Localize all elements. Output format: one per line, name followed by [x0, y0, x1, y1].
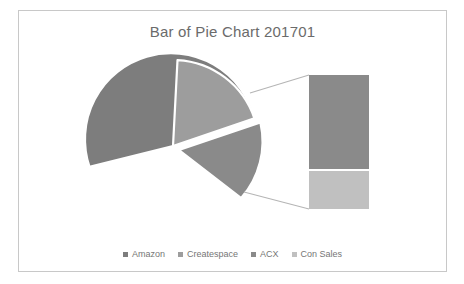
- connector-line-bottom: [244, 192, 309, 209]
- legend-item-amazon[interactable]: Amazon: [123, 250, 165, 259]
- bar-segment-con-sales[interactable]: [309, 171, 369, 209]
- legend-label-con-sales: Con Sales: [301, 250, 343, 259]
- legend-item-acx[interactable]: ACX: [251, 250, 279, 259]
- legend-swatch-acx: [251, 252, 256, 257]
- screenshot-canvas: Bar of Pie Chart 201701 Amazon: [0, 0, 464, 284]
- bar-segment-acx[interactable]: [309, 75, 369, 169]
- connector-line-top: [250, 75, 309, 93]
- legend-swatch-amazon: [123, 252, 128, 257]
- legend-item-createspace[interactable]: Createspace: [178, 250, 238, 259]
- chart-frame: Bar of Pie Chart 201701 Amazon: [18, 10, 447, 272]
- legend-swatch-con-sales: [292, 252, 297, 257]
- legend-swatch-createspace: [178, 252, 183, 257]
- chart-legend: Amazon Createspace ACX Con Sales: [19, 250, 446, 259]
- legend-label-createspace: Createspace: [187, 250, 238, 259]
- chart-plot-area: [19, 11, 448, 273]
- legend-item-con-sales[interactable]: Con Sales: [292, 250, 343, 259]
- legend-label-amazon: Amazon: [132, 250, 165, 259]
- legend-label-acx: ACX: [260, 250, 279, 259]
